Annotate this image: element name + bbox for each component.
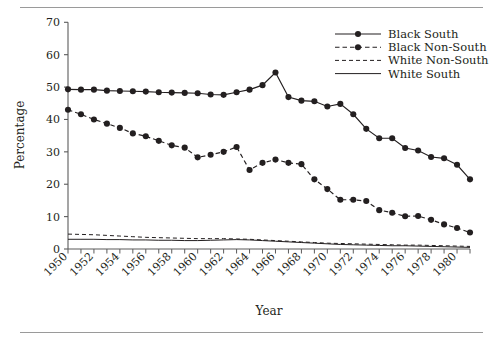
x-tick-label: 1956	[119, 250, 148, 279]
data-point	[195, 90, 201, 96]
data-point	[156, 89, 162, 95]
data-point	[324, 186, 330, 192]
x-axis: 1950195219541956195819601962196419661968…	[41, 249, 470, 279]
legend-marker	[355, 31, 361, 37]
x-tick-label: 1974	[352, 250, 381, 279]
data-point	[376, 135, 382, 141]
chart-legend: Black SouthBlack Non-SouthWhite Non-Sout…	[335, 27, 489, 81]
data-point	[428, 154, 434, 160]
data-point	[117, 88, 123, 94]
data-point	[402, 213, 408, 219]
data-point	[65, 86, 71, 92]
data-point	[246, 87, 252, 93]
legend-marker	[355, 44, 361, 50]
y-tick-label: 70	[46, 16, 60, 29]
data-point	[285, 160, 291, 166]
data-point	[298, 98, 304, 104]
y-axis: 010203040506070	[46, 16, 68, 256]
data-point	[130, 88, 136, 94]
bottom-divider-rule	[20, 332, 483, 333]
legend-item: White Non-South	[335, 53, 489, 67]
data-point	[143, 133, 149, 139]
x-tick-label: 1950	[41, 250, 70, 279]
legend-item: Black Non-South	[335, 40, 487, 54]
data-point	[363, 198, 369, 204]
data-point	[221, 92, 227, 98]
series-black-south	[65, 69, 473, 182]
top-divider-rule	[20, 7, 483, 8]
data-point	[402, 145, 408, 151]
data-series-group	[65, 69, 473, 247]
data-point	[130, 130, 136, 136]
data-point	[415, 147, 421, 153]
legend-item: White South	[335, 67, 461, 81]
data-point	[428, 217, 434, 223]
data-point	[350, 111, 356, 117]
data-point	[337, 101, 343, 107]
data-point	[169, 90, 175, 96]
data-point	[182, 145, 188, 151]
x-tick-label: 1962	[197, 250, 226, 279]
data-point	[415, 213, 421, 219]
data-point	[78, 87, 84, 93]
data-point	[182, 90, 188, 96]
data-point	[117, 125, 123, 131]
legend-label: Black South	[388, 27, 459, 41]
y-tick-label: 50	[46, 81, 60, 94]
data-point	[363, 126, 369, 132]
data-point	[78, 111, 84, 117]
data-point	[324, 103, 330, 109]
data-point	[441, 221, 447, 227]
y-tick-label: 30	[46, 146, 60, 159]
data-point	[156, 138, 162, 144]
data-point	[337, 197, 343, 203]
y-tick-label: 60	[46, 49, 60, 62]
data-point	[221, 149, 227, 155]
series-black-non-south	[65, 107, 473, 236]
x-tick-label: 1964	[223, 250, 252, 279]
y-tick-label: 40	[46, 113, 60, 126]
line-chart: 010203040506070 195019521954195619581960…	[0, 0, 503, 347]
legend-label: White Non-South	[388, 53, 489, 67]
data-point	[454, 162, 460, 168]
legend-item: Black South	[335, 27, 459, 41]
y-tick-label: 10	[46, 211, 60, 224]
data-point	[65, 107, 71, 113]
data-point	[272, 69, 278, 75]
data-point	[195, 154, 201, 160]
data-point	[143, 89, 149, 95]
x-tick-label: 1966	[249, 250, 278, 279]
data-point	[389, 210, 395, 216]
y-axis-title: Percentage	[13, 101, 27, 170]
legend-label: White South	[388, 67, 461, 81]
data-point	[389, 135, 395, 141]
data-point	[467, 176, 473, 182]
data-point	[311, 98, 317, 104]
data-point	[298, 161, 304, 167]
x-tick-label: 1978	[404, 250, 433, 279]
x-tick-label: 1960	[171, 250, 200, 279]
data-point	[208, 91, 214, 97]
x-tick-label: 1968	[275, 250, 304, 279]
data-point	[104, 88, 110, 94]
data-point	[91, 116, 97, 122]
legend-label: Black Non-South	[388, 40, 487, 54]
x-tick-label: 1972	[326, 250, 355, 279]
data-point	[454, 225, 460, 231]
figure-container: 010203040506070 195019521954195619581960…	[0, 0, 503, 347]
x-tick-label: 1954	[93, 250, 122, 279]
data-point	[441, 155, 447, 161]
data-point	[376, 207, 382, 213]
data-point	[259, 160, 265, 166]
x-tick-label: 1976	[378, 250, 407, 279]
x-tick-label: 1980	[430, 250, 459, 279]
data-point	[311, 176, 317, 182]
data-point	[350, 197, 356, 203]
data-point	[169, 142, 175, 148]
data-point	[234, 144, 240, 150]
y-tick-label: 20	[46, 178, 60, 191]
x-axis-title: Year	[255, 304, 283, 318]
data-point	[234, 89, 240, 95]
data-point	[285, 94, 291, 100]
data-point	[246, 167, 252, 173]
